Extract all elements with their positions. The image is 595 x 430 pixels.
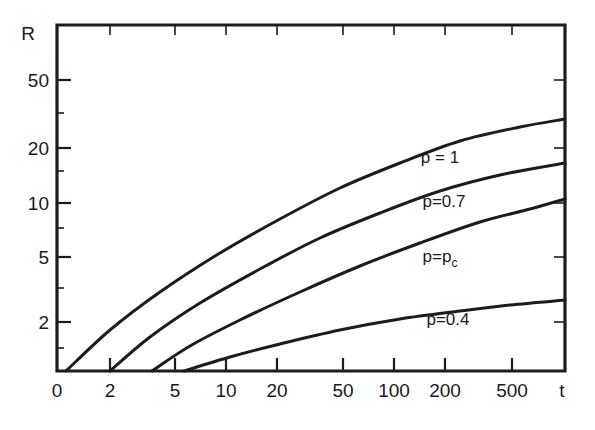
x-tick-label-10: 10 bbox=[215, 380, 236, 401]
curve-label-p-0-4: p=0.4 bbox=[426, 310, 469, 329]
x-axis-title: t bbox=[559, 380, 565, 401]
x-tick-label-5: 5 bbox=[170, 380, 181, 401]
x-tick-label-20: 20 bbox=[266, 380, 287, 401]
percolation-resistance-chart: 50 20 10 5 2 0 2 5 10 20 50 100 200 500 … bbox=[0, 0, 595, 430]
y-tick-label-2: 2 bbox=[38, 312, 49, 333]
x-tick-label-500: 500 bbox=[496, 380, 528, 401]
curve-p-pc bbox=[152, 199, 565, 371]
plot-frame bbox=[57, 25, 565, 371]
y-axis-ticks bbox=[57, 80, 71, 322]
curve-p-0-4 bbox=[184, 300, 565, 371]
x-tick-label-50: 50 bbox=[332, 380, 353, 401]
curve-label-p-0-7: p=0.7 bbox=[422, 192, 465, 211]
curve-label-p-pc: p=pc bbox=[423, 247, 458, 270]
x-tick-label-0: 0 bbox=[52, 380, 63, 401]
x-tick-label-100: 100 bbox=[378, 380, 410, 401]
y-tick-label-50: 50 bbox=[28, 70, 49, 91]
curve-p-1 bbox=[66, 119, 565, 371]
figure-container: 50 20 10 5 2 0 2 5 10 20 50 100 200 500 … bbox=[0, 0, 595, 430]
y-tick-label-10: 10 bbox=[28, 193, 49, 214]
y-tick-label-5: 5 bbox=[38, 247, 49, 268]
curve-p-0-7 bbox=[110, 163, 565, 371]
y-axis-title: R bbox=[21, 23, 35, 44]
x-tick-label-200: 200 bbox=[429, 380, 461, 401]
y-tick-label-20: 20 bbox=[28, 138, 49, 159]
curve-label-p-1: p = 1 bbox=[421, 148, 459, 167]
x-tick-label-2: 2 bbox=[105, 380, 116, 401]
